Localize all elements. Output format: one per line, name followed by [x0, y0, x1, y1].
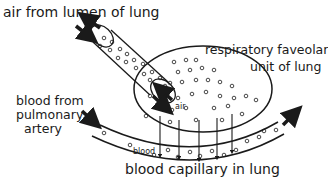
capillary — [92, 122, 284, 160]
label-blood-source-line3: artery — [24, 122, 62, 135]
label-inner-blood: blood — [133, 148, 155, 156]
lung-diagram — [0, 0, 328, 179]
arrow-icon-blood-out — [283, 113, 295, 125]
label-inner-air: air — [175, 103, 185, 111]
label-blood-source-line1: blood from — [16, 94, 84, 107]
double-arrow-icon — [76, 18, 100, 37]
label-blood-source-line2: pulmonary — [16, 108, 83, 121]
diffusion-arrows — [160, 114, 232, 160]
label-alveolus-line1: respiratory faveolar — [205, 43, 328, 56]
label-capillary: blood capillary in lung — [125, 162, 280, 177]
double-arrow-icon-entry — [153, 89, 172, 108]
arrow-icon-blood-in — [82, 111, 94, 122]
label-air-source: air from lumen of lung — [3, 5, 160, 20]
blood-particles — [102, 128, 278, 159]
label-alveolus-line2: unit of lung — [250, 60, 321, 73]
